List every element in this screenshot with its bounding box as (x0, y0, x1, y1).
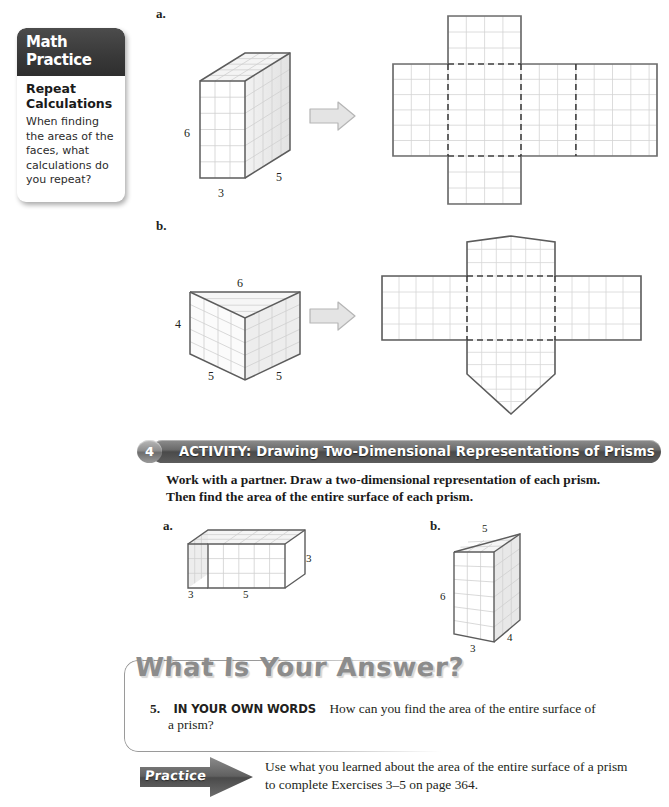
activity-figure-a: 3 3 5 (180, 522, 340, 597)
activity-a-height-label: 3 (306, 552, 312, 564)
tri-net-grid (375, 232, 665, 424)
triangular-prism-net (375, 232, 665, 424)
question-5-text: How can you find the area of the entire … (329, 701, 595, 716)
rectangular-prism-figure: 6 3 5 (160, 45, 320, 210)
math-practice-title-line1: Repeat (26, 82, 117, 97)
math-practice-callout: Math Practice Repeat Calculations When f… (17, 28, 125, 202)
practice-text-line1: Use what you learned about the area of t… (265, 758, 665, 776)
activity-a-label: a. (163, 518, 173, 534)
activity-number-badge: 4 (137, 440, 162, 463)
tri-prism-top-label: 6 (237, 276, 243, 290)
activity-title: ACTIVITY: Drawing Two-Dimensional Repres… (179, 440, 655, 463)
question-5-caps: IN YOUR OWN WORDS (173, 702, 316, 716)
net-grid (385, 16, 665, 204)
activity-banner: 4 ACTIVITY: Drawing Two-Dimensional Repr… (137, 440, 661, 463)
math-practice-title-line2: Calculations (26, 97, 117, 112)
math-practice-header-line2: Practice (26, 51, 125, 69)
activity-b-side-label: 4 (507, 631, 513, 643)
tri-prism-right-slant-label: 5 (276, 369, 282, 383)
question-5-text-line2: a prism? (168, 717, 214, 733)
activity-b-height-label: 6 (440, 590, 446, 602)
right-arrow-icon-a (308, 100, 358, 132)
rectangular-prism-net (385, 8, 665, 208)
math-practice-text: When finding the areas of the faces, wha… (26, 115, 117, 188)
activity-instructions: Work with a partner. Draw a two-dimensio… (166, 471, 656, 505)
math-practice-header-line1: Math (26, 33, 125, 51)
rect-prism-width-label: 3 (218, 186, 224, 200)
rect-prism-depth-label: 5 (276, 170, 282, 184)
what-is-your-answer-heading: What Is Your Answer? (134, 652, 464, 682)
right-arrow-icon-b (308, 300, 358, 332)
tri-prism-left-slant-label: 5 (208, 369, 214, 383)
activity-b-front-label: 3 (470, 642, 476, 654)
question-5: 5. IN YOUR OWN WORDS How can you find th… (150, 700, 620, 719)
activity-instructions-line1: Work with a partner. Draw a two-dimensio… (166, 471, 656, 488)
math-practice-title: Repeat Calculations (26, 82, 117, 111)
practice-label: Practice (144, 768, 207, 783)
activity-figure-b: 5 6 3 4 (432, 522, 562, 652)
example-a-label: a. (156, 6, 166, 22)
activity-b-top-label: 5 (482, 522, 488, 534)
activity-a-depth-label: 3 (188, 588, 194, 600)
math-practice-header: Math Practice (17, 28, 125, 76)
math-practice-body: Repeat Calculations When finding the are… (17, 76, 125, 188)
activity-a-width-label: 5 (243, 588, 249, 600)
triangular-prism-figure: 6 4 5 5 (180, 280, 330, 385)
practice-text: Use what you learned about the area of t… (265, 758, 665, 794)
activity-instructions-line2: Then find the area of the entire surface… (166, 488, 656, 505)
tri-prism-height-label: 4 (175, 317, 181, 331)
practice-arrow-badge: Practice (140, 757, 255, 797)
practice-text-line2: to complete Exercises 3–5 on page 364. (265, 776, 665, 794)
example-b-label: b. (156, 218, 166, 234)
question-5-number: 5. (150, 701, 160, 716)
rect-prism-height-label: 6 (184, 126, 190, 140)
